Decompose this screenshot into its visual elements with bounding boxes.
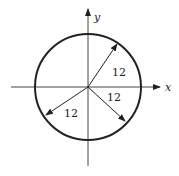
radius-label-lower-left: 12 [64, 107, 78, 120]
y-axis-label: y [93, 11, 101, 24]
radius-label-upper-right: 12 [112, 66, 126, 79]
radius-label-lower-right: 12 [107, 91, 121, 104]
circle-diagram: x y 12 12 12 [0, 0, 179, 176]
x-axis-label: x [165, 81, 172, 94]
